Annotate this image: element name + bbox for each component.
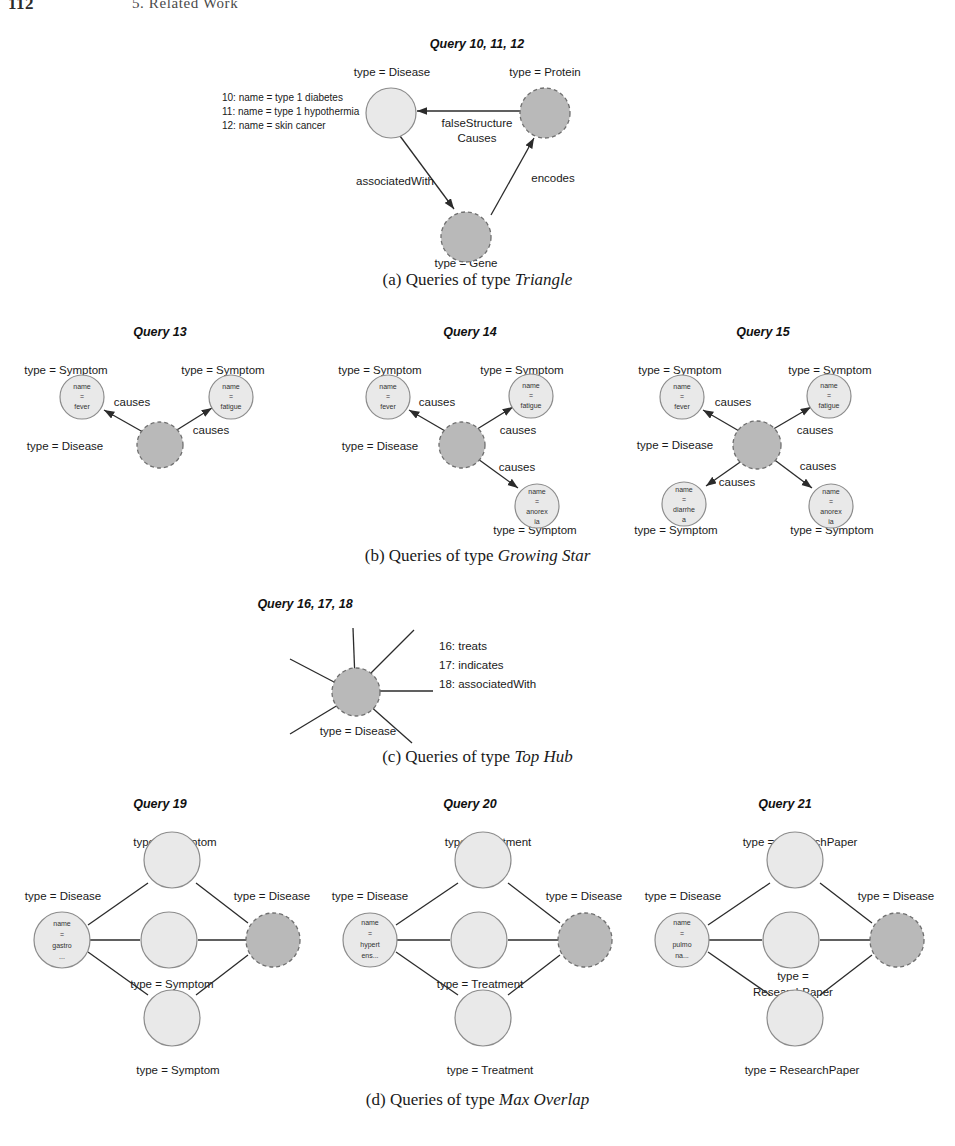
q15-leaf2-line1: = [682, 496, 686, 503]
q13-title: Query 13 [133, 325, 187, 339]
subcaption-c: (c) Queries of type Top Hub [0, 747, 955, 767]
subcaption-a-text: (a) Queries of type [383, 270, 515, 289]
q13-leaf0-type: type = Symptom [24, 364, 107, 376]
q13-leaf1-line0: name [222, 383, 240, 390]
q15-leaf0-type: type = Symptom [638, 364, 721, 376]
triangle-node-gene[interactable] [441, 212, 491, 262]
q15-leaf3-line1: = [829, 498, 833, 505]
q20-left-type: type = Disease [332, 890, 408, 902]
q20-bottom-node[interactable] [455, 990, 511, 1046]
q15-center-node-disease[interactable] [733, 421, 781, 469]
subfigure-d-max-overlap: Query 19 type = Symptom type = Disease t… [0, 790, 955, 1130]
q13-center-node-disease[interactable] [137, 422, 183, 468]
q20-edge-tr [508, 883, 560, 923]
q20-left-line2: hypert [360, 941, 380, 949]
q20-title: Query 20 [443, 797, 497, 811]
growing-star-diagrams: Query 13 type = Symptom type = Symptom t… [0, 318, 955, 543]
q13-leaf0-line0: name [73, 383, 91, 390]
subcaption-a-emph: Triangle [515, 270, 573, 289]
q13-edge-label-0: causes [114, 396, 151, 408]
triangle-edge-label-associatedwith: associatedWith [356, 175, 434, 187]
q15-leaf0-line2: fever [674, 403, 690, 410]
q14-leaf0-type: type = Symptom [338, 364, 421, 376]
q14-leaf1-line2: fatigue [520, 402, 541, 410]
q21-edge-tr [820, 883, 872, 923]
q19-left-line3: ... [59, 953, 65, 960]
running-head: 112 5. Related Work [0, 0, 955, 16]
subcaption-a: (a) Queries of type Triangle [0, 270, 955, 290]
q14-edge-label-0: causes [419, 396, 456, 408]
triangle-edge-disease-gene [400, 136, 454, 209]
q14-leaf0-line0: name [379, 383, 397, 390]
q21-edge-bl [708, 952, 770, 995]
q13-edge-label-1: causes [193, 424, 230, 436]
q20-edge-bl [396, 952, 458, 995]
q14-edge-label-2: causes [499, 461, 536, 473]
q13-leaf0-line1: = [80, 393, 84, 400]
q15-leaf3-line0: name [822, 488, 840, 495]
q19-edge-bl [88, 952, 148, 995]
q21-middle-node[interactable] [763, 912, 819, 968]
q15-leaf2-line3: a [682, 516, 686, 523]
top-hub-variant-17: 17: indicates [439, 659, 504, 671]
q14-edge-label-1: causes [500, 424, 537, 436]
q15-leaf3-line2: anorex [820, 508, 842, 515]
triangle-variant-10: 10: name = type 1 diabetes [222, 92, 343, 103]
q20-middle-node[interactable] [451, 912, 507, 968]
q19-right-node-disease[interactable] [246, 913, 300, 967]
q19-left-line2: gastro [52, 942, 72, 950]
page-folio: 112 [8, 0, 34, 14]
q20-right-node-disease[interactable] [558, 913, 612, 967]
q13-center-type: type = Disease [27, 440, 103, 452]
top-hub-title: Query 16, 17, 18 [257, 597, 352, 611]
q20-bottom-label: type = Treatment [447, 1064, 534, 1076]
q15-leaf3-line3: ia [828, 518, 834, 525]
q21-bottom-node[interactable] [767, 990, 823, 1046]
q21-left-line2: pulmo [672, 941, 691, 949]
q15-leaf2-type: type = Symptom [634, 524, 717, 536]
top-hub-center-node[interactable] [332, 668, 380, 716]
q14-center-node-disease[interactable] [439, 422, 485, 468]
q21-edge-br [820, 955, 872, 995]
subcaption-c-emph: Top Hub [514, 747, 572, 766]
q21-right-node-disease[interactable] [870, 913, 924, 967]
q20-edge-br [508, 955, 560, 995]
q19-edge-tr [196, 883, 248, 923]
q19-bottom-node[interactable] [144, 990, 200, 1046]
subcaption-b: (b) Queries of type Growing Star [0, 546, 955, 566]
q19-middle-node[interactable] [141, 912, 197, 968]
q19-left-line1: = [60, 931, 64, 938]
q14-leaf0-line1: = [386, 393, 390, 400]
q15-edge-label-0: causes [715, 396, 752, 408]
q14-leaf0-line2: fever [380, 403, 396, 410]
q14-leaf2-line1: = [535, 498, 539, 505]
subfigure-c-top-hub: Query 16, 17, 18 type = Disease 16: trea… [0, 592, 955, 782]
q19-right-type: type = Disease [234, 890, 310, 902]
q14-center-type: type = Disease [342, 440, 418, 452]
triangle-edge-label-causes: Causes [458, 132, 497, 144]
triangle-node-disease[interactable] [366, 88, 416, 138]
top-hub-center-type: type = Disease [320, 725, 396, 737]
hub-spoke-6 [290, 659, 334, 682]
q21-top-node[interactable] [767, 832, 823, 888]
subcaption-b-emph: Growing Star [498, 546, 590, 565]
q13-leaf0-line2: fever [74, 403, 90, 410]
subcaption-c-text: (c) Queries of type [382, 747, 514, 766]
q14-leaf1-line0: name [522, 382, 540, 389]
q14-leaf2-line3: ia [534, 518, 540, 525]
q20-left-line0: name [361, 919, 379, 926]
q21-left-line0: name [673, 919, 691, 926]
hub-spoke-4 [369, 705, 412, 743]
query-21-group: Query 21 type = ResearchPaper type = Dis… [645, 797, 934, 1076]
q20-left-line1: = [368, 930, 372, 937]
q20-top-node[interactable] [455, 832, 511, 888]
q13-leaf1-line2: fatigue [220, 403, 241, 411]
q15-center-type: type = Disease [637, 439, 713, 451]
q15-leaf2-line0: name [675, 486, 693, 493]
triangle-node-protein[interactable] [520, 88, 570, 138]
q19-edge-br [196, 955, 248, 995]
q15-title: Query 15 [736, 325, 791, 339]
q19-top-node[interactable] [144, 832, 200, 888]
q21-right-type: type = Disease [858, 890, 934, 902]
triangle-node-label-protein: type = Protein [509, 66, 580, 78]
